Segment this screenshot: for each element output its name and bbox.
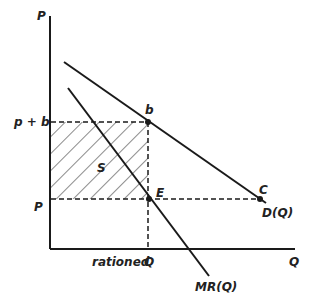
demand-curve-label: D(Q) [262, 207, 293, 219]
point-e [146, 196, 152, 202]
point-b [145, 119, 151, 125]
mr-curve-label: MR(Q) [195, 281, 237, 293]
x-axis-label: Q [289, 256, 299, 268]
price-label-high: p + b [14, 116, 50, 128]
point-b-label: b [145, 104, 154, 116]
diagram-canvas [0, 0, 310, 307]
price-label-low: P [34, 201, 43, 213]
rationed-q-label: Q [144, 256, 154, 268]
point-c-label: C [259, 184, 268, 196]
point-e-label: E [156, 187, 164, 199]
y-axis-label: P [37, 10, 46, 22]
area-s-label: S [97, 162, 106, 174]
rationed-label: rationed [92, 256, 149, 268]
